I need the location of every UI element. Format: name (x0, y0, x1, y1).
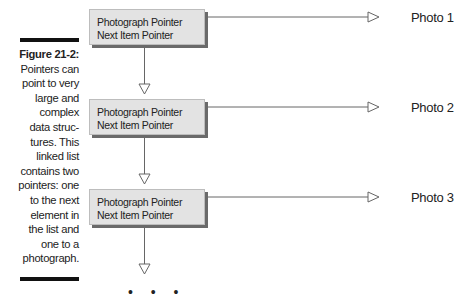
photograph-pointer-label: Photograph Pointer (97, 16, 204, 29)
photograph-pointer-label: Photograph Pointer (97, 196, 204, 209)
next-item-pointer-label: Next Item Pointer (97, 29, 204, 42)
linked-list-node-3: Photograph Pointer Next Item Pointer (89, 189, 205, 225)
next-item-pointer-label: Next Item Pointer (97, 209, 204, 222)
photo-3-label: Photo 3 (411, 190, 454, 205)
photograph-pointer-label: Photograph Pointer (97, 106, 204, 119)
next-item-pointer-label: Next Item Pointer (97, 119, 204, 132)
linked-list-node-1: Photograph Pointer Next Item Pointer (89, 9, 205, 45)
photo-1-label: Photo 1 (411, 10, 454, 25)
continuation-ellipsis: • • • (128, 288, 185, 296)
connector-lines (0, 0, 473, 302)
linked-list-node-2: Photograph Pointer Next Item Pointer (89, 99, 205, 135)
photo-2-label: Photo 2 (411, 100, 454, 115)
